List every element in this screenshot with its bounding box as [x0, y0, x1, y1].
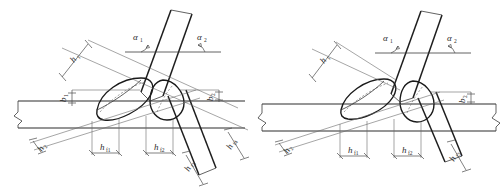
label-h-bottom-second-right: h f2 — [402, 145, 413, 156]
b-right-subscript: 2 — [210, 93, 216, 96]
b-left-subscript: 1 — [63, 94, 69, 97]
projection-lines-right — [275, 42, 444, 152]
h-bottom-first-symbol: h — [100, 142, 105, 152]
label-alpha-1-right: α 1 — [383, 33, 393, 44]
h-bottom-second-symbol: h — [154, 142, 159, 152]
alpha-1-subscript-right: 1 — [390, 38, 393, 44]
h-lower-right-subscript: f4 — [231, 139, 239, 146]
chord-member-right — [258, 104, 500, 131]
alpha-1-symbol-right: α — [383, 33, 388, 43]
dim-b-left — [68, 90, 140, 106]
label-b-right-view: b 2 — [457, 95, 468, 103]
right-joint-view: α 1 α 2 h 1 b 2 h f1 h — [258, 11, 500, 172]
technical-drawing: α 1 α 2 h 1 b 1 b 2 — [0, 0, 501, 193]
alpha-2-subscript: 2 — [204, 37, 207, 43]
label-h-bottom-second: h f2 — [154, 142, 165, 153]
label-alpha-2-right: α 2 — [447, 33, 457, 44]
angle-baseline-left — [125, 43, 221, 52]
joint-detail-svg: α 1 α 2 h 1 b 1 b 2 — [0, 0, 501, 193]
alpha-1-symbol: α — [133, 32, 138, 42]
h-bottom-first-subscript-right: f1 — [354, 150, 359, 156]
alpha-2-symbol: α — [197, 32, 202, 42]
h-bottom-first-symbol-right: h — [348, 145, 353, 155]
h-bottom-first-subscript: f1 — [106, 147, 111, 153]
h-bottom-second-subscript: f2 — [160, 147, 165, 153]
label-b-right: b 2 — [205, 93, 216, 101]
label-h-bottom-first-right: h f1 — [348, 145, 359, 156]
branch-tube-left — [141, 10, 192, 96]
label-h-bottom-first: h f1 — [100, 142, 111, 153]
b-right-subscript-right: 2 — [462, 95, 468, 98]
branch-tube-right — [391, 11, 442, 98]
label-alpha-2: α 2 — [197, 32, 207, 43]
label-b-left: b 1 — [58, 94, 69, 102]
label-h-lower-right: h f4 — [224, 137, 239, 152]
alpha-2-subscript-right: 2 — [454, 38, 457, 44]
label-alpha-1: α 1 — [133, 32, 143, 43]
alpha-2-symbol-right: α — [447, 33, 452, 43]
left-joint-view: α 1 α 2 h 1 b 1 b 2 — [14, 10, 249, 186]
label-h-lower-left: h 2 — [35, 141, 49, 154]
h-bottom-second-symbol-right: h — [402, 145, 407, 155]
h-bottom-second-subscript-right: f2 — [408, 150, 413, 156]
angle-baseline-right — [375, 44, 471, 53]
weld-bead-right-lens — [341, 79, 396, 119]
label-h-lower-left-right: h 2 — [281, 143, 295, 156]
label-h-upper-left: h 1 — [68, 51, 82, 65]
alpha-1-subscript: 1 — [140, 37, 143, 43]
